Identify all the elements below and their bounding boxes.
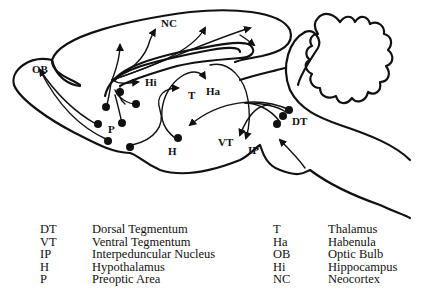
label-ha: Ha [206,85,221,97]
legend-abbr: P [40,273,47,286]
label-hi: Hi [145,76,157,88]
legend-abbr: IP [40,248,51,261]
label-dt: DT [292,115,308,127]
legend-abbr: OB [273,248,290,261]
legend-name: Interpeduncular Nucleus [92,248,215,261]
legend-row: TThalamus [273,223,433,236]
legend-right: TThalamus HaHabenula OBOptic Bulb HiHipp… [273,223,433,286]
legend-row: NCNeocortex [273,273,433,286]
label-h: H [168,145,177,157]
legend-name: Neocortex [328,273,380,286]
legend-row: DTDorsal Tegmentum [40,223,230,236]
label-vt: VT [218,136,234,148]
legend-name: Optic Bulb [328,248,383,261]
legend-abbr: NC [273,273,290,286]
legend-row: PPreoptic Area [40,273,230,286]
legend-row: OBOptic Bulb [273,248,433,261]
brain-diagram: NC OB Hi T Ha P H VT IP DT [0,0,435,220]
label-t: T [188,89,196,101]
cerebellum-base [286,32,410,160]
cerebellum [306,14,393,103]
legend-abbr: T [273,223,281,236]
legend-left: DTDorsal Tegmentum VTVentral Tegmentum I… [40,223,230,286]
legend-name: Thalamus [328,223,377,236]
label-ob: OB [32,63,49,75]
legend-name: Preoptic Area [92,273,160,286]
label-ip: IP [248,144,259,156]
midbrain-roof [240,68,285,80]
legend-abbr: DT [40,223,57,236]
brain-outline-lower [13,59,410,218]
label-nc: NC [161,17,177,29]
label-p: P [108,123,115,135]
legend-row: IPInterpeduncular Nucleus [40,248,230,261]
legend-name: Dorsal Tegmentum [92,223,188,236]
